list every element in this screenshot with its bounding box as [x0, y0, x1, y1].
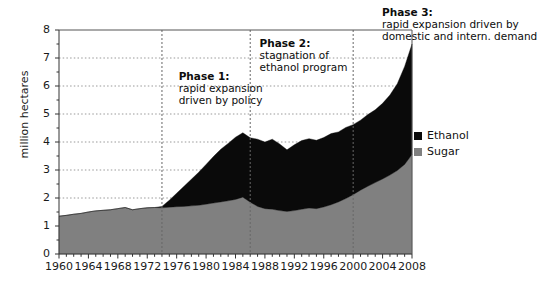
y-tick-label: 8 — [32, 24, 50, 35]
legend-label-sugar: Sugar — [427, 144, 459, 160]
y-tick-label: 7 — [32, 52, 50, 63]
annotation-phase-3-heading: Phase 3: — [382, 6, 537, 18]
y-tick-label: 5 — [32, 108, 50, 119]
legend-item-sugar: Sugar — [414, 144, 469, 160]
annotation-phase-2-line-2: ethanol program — [260, 61, 348, 73]
legend-swatch-ethanol-icon — [414, 132, 422, 140]
y-tick-label: 0 — [32, 248, 50, 259]
annotation-phase-3: Phase 3: rapid expansion driven by domes… — [382, 6, 537, 43]
chart-legend: Ethanol Sugar — [414, 128, 469, 160]
legend-label-ethanol: Ethanol — [427, 128, 469, 144]
y-tick-label: 4 — [32, 136, 50, 147]
legend-item-ethanol: Ethanol — [414, 128, 469, 144]
annotation-phase-1-line-2: driven by policy — [179, 94, 263, 106]
annotation-phase-2: Phase 2: stagnation of ethanol program — [260, 37, 348, 74]
x-tick-label: 2008 — [395, 261, 429, 273]
y-tick-label: 1 — [32, 220, 50, 231]
annotation-phase-1: Phase 1: rapid expansion driven by polic… — [179, 70, 263, 107]
legend-swatch-sugar-icon — [414, 148, 422, 156]
y-tick-label: 2 — [32, 192, 50, 203]
y-axis-title: million hectares — [18, 45, 31, 185]
annotation-phase-1-line-1: rapid expansion — [179, 82, 263, 94]
annotation-phase-2-line-1: stagnation of — [260, 49, 348, 61]
annotation-phase-3-line-1: rapid expansion driven by — [382, 18, 537, 30]
y-tick-label: 3 — [32, 164, 50, 175]
annotation-phase-3-line-2: domestic and intern. demand — [382, 30, 537, 42]
annotation-phase-2-heading: Phase 2: — [260, 37, 348, 49]
y-tick-label: 6 — [32, 80, 50, 91]
annotation-phase-1-heading: Phase 1: — [179, 70, 263, 82]
